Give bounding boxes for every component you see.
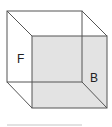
label-back-face: B bbox=[90, 71, 98, 85]
edge-top-right bbox=[82, 11, 107, 36]
label-front-face: F bbox=[17, 52, 24, 66]
edge-top-left bbox=[7, 11, 32, 36]
edge-bottom-left bbox=[7, 82, 32, 108]
cube-diagram: F B bbox=[0, 0, 112, 127]
